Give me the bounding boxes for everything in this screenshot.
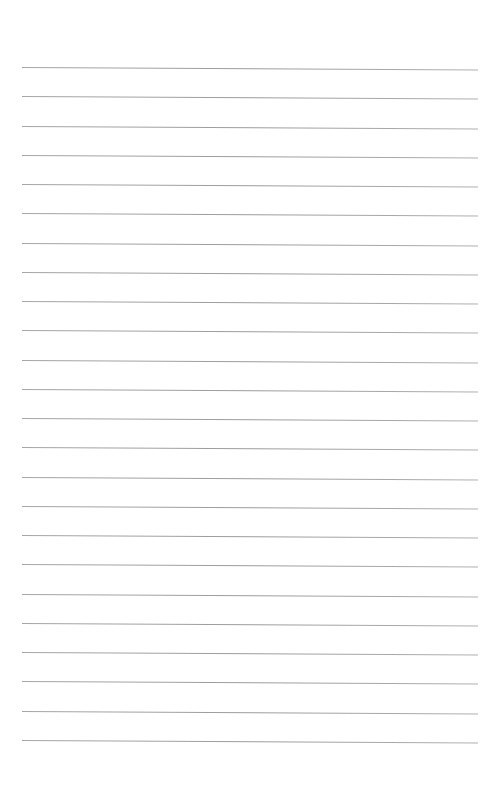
- ruled-line: [22, 330, 478, 333]
- ruled-line: [22, 272, 478, 275]
- ruled-line: [22, 623, 478, 626]
- ruled-line: [22, 711, 478, 714]
- ruled-line: [22, 301, 478, 304]
- ruled-line: [22, 213, 478, 216]
- ruled-line: [22, 447, 478, 450]
- ruled-line: [22, 243, 478, 246]
- ruled-line: [22, 155, 478, 158]
- ruled-line: [22, 681, 478, 684]
- ruled-line: [22, 477, 478, 480]
- lined-paper-page: [0, 0, 502, 792]
- ruled-line: [22, 67, 478, 70]
- ruled-line: [22, 652, 478, 655]
- ruled-line: [22, 184, 478, 187]
- ruled-line: [22, 564, 478, 567]
- ruled-line: [22, 418, 478, 421]
- ruled-line: [22, 506, 478, 509]
- ruled-line: [22, 360, 478, 363]
- ruled-line: [22, 740, 478, 743]
- ruled-line: [22, 126, 478, 129]
- ruled-line: [22, 535, 478, 538]
- ruled-line: [22, 389, 478, 392]
- ruled-line: [22, 96, 478, 99]
- ruled-line: [22, 594, 478, 597]
